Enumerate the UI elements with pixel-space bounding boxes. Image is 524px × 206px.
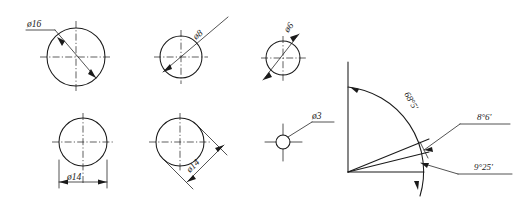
view-circle-d8: ø8 [154, 17, 228, 84]
angular-arc-arrow-bottom [414, 181, 419, 190]
leader-arrow-8-6 [424, 147, 433, 152]
view-circle-d14-horizontal: ø14 [52, 113, 115, 188]
view-circle-d6: ø6 [261, 20, 306, 82]
leader-line-d8 [163, 17, 228, 72]
dim-arrow-right-d14h [98, 180, 107, 185]
leader-line-d3 [288, 122, 312, 137]
dim-label-d3: ø3 [311, 111, 322, 121]
view-circle-d14-diagonal: ø14 [149, 113, 227, 189]
drawing-svg: ø16 ø8 ø6 [0, 0, 524, 206]
dim-label-d14d: ø14 [184, 157, 202, 175]
view-angular-dimensions: 68°5' 8°6' 9°25' [348, 62, 512, 196]
dim-label-d16: ø16 [26, 19, 42, 29]
drawing-canvas: ø16 ø8 ø6 [0, 0, 524, 206]
leader-arrow-9-25 [421, 163, 429, 168]
angular-label-8-6: 8°6' [477, 112, 493, 122]
view-circle-d16: ø16 [26, 19, 112, 93]
angular-label-68-5: 68°5' [402, 90, 421, 112]
leader-line-8-6 [424, 124, 460, 150]
view-circle-d3: ø3 [265, 111, 334, 161]
angular-label-9-25: 9°25' [474, 162, 494, 172]
leader-arrow2-d6 [290, 34, 299, 42]
dim-label-d8: ø8 [190, 28, 205, 43]
extension-line-upper-d14d [197, 125, 227, 155]
leader-arrow-d6 [263, 72, 272, 80]
dim-arrow-lower-d14d [187, 175, 196, 182]
dim-label-d14h: ø14 [66, 172, 82, 182]
leader-line-d16 [55, 30, 96, 78]
dim-label-d6: ø6 [281, 20, 295, 35]
leader-arrow2-d16 [57, 37, 65, 46]
